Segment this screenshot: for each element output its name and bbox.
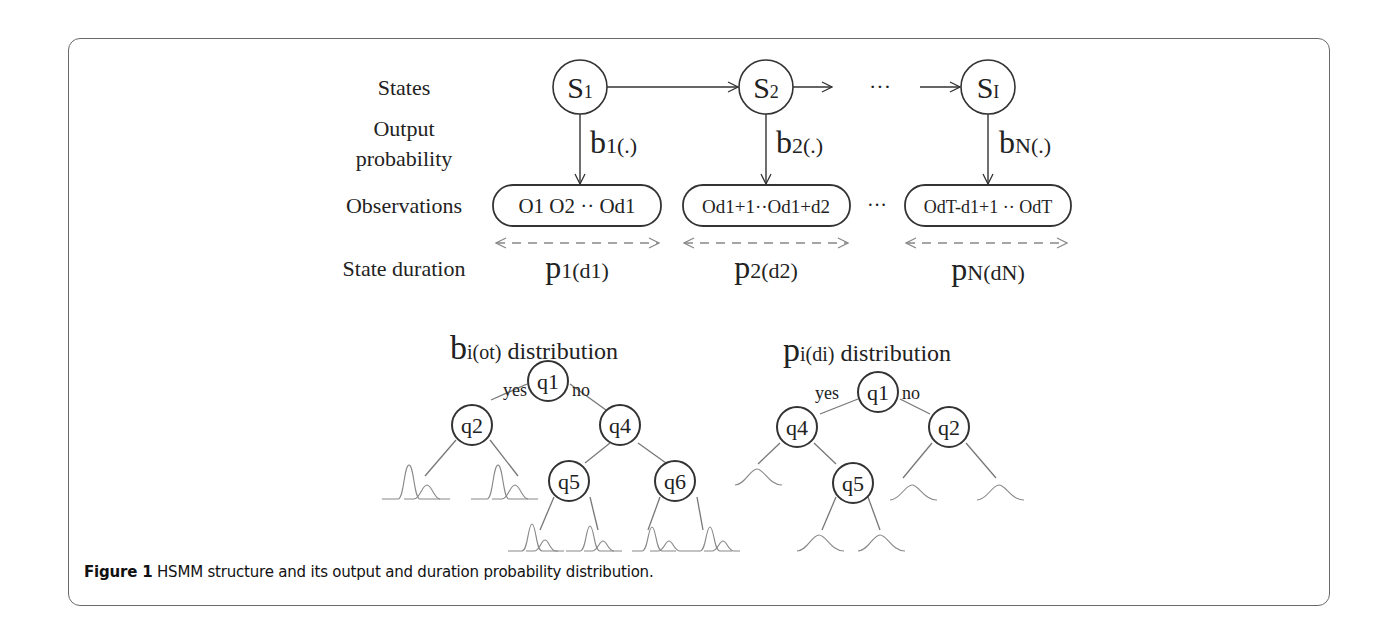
svg-text:OdT-d1+1 ·· OdT: OdT-d1+1 ·· OdT (924, 197, 1052, 217)
tree2-node-q4: q4 (777, 407, 817, 447)
tree2-node-q1: q1 (858, 372, 898, 412)
svg-text:q4: q4 (786, 415, 808, 440)
row-label-state-duration: State duration (343, 256, 466, 281)
tree2-gaussian-leaves (735, 469, 1024, 551)
tree2-node-q5: q5 (833, 463, 873, 503)
tree1-node-q1: q1 (528, 361, 568, 401)
observations-ellipsis: ··· (867, 194, 887, 216)
output-prob-bn: bN(.) (999, 124, 1051, 160)
row-label-states: States (378, 75, 431, 100)
svg-text:q2: q2 (461, 413, 483, 438)
duration-p2: p2(d2) (734, 249, 798, 285)
tree1-node-q2: q2 (452, 405, 492, 445)
row-label-observations: Observations (346, 193, 462, 218)
hsmm-diagram: States Output probability Observations S… (0, 0, 1392, 632)
svg-text:q4: q4 (609, 413, 631, 438)
output-distribution-tree: bi(ot) distribution q1 q2 q4 q5 q6 yes n… (382, 329, 740, 551)
tree1-yes-label: yes (503, 380, 527, 400)
state-node-si: SI (961, 60, 1015, 114)
svg-text:q5: q5 (558, 469, 580, 494)
duration-distribution-tree: pi(di) distribution q1 q4 q2 q5 yes no (735, 331, 1024, 551)
tree1-node-q4: q4 (600, 405, 640, 445)
duration-p1: p1(d1) (545, 249, 609, 285)
svg-text:O1 O2 ·· Od1: O1 O2 ·· Od1 (518, 194, 635, 218)
state-node-s1: S1 (553, 60, 607, 114)
svg-text:q1: q1 (537, 369, 559, 394)
tree1-node-q5: q5 (549, 461, 589, 501)
observation-box-1: O1 O2 ·· Od1 (493, 185, 661, 226)
figure-caption: Figure 1 HSMM structure and its output a… (84, 563, 654, 581)
svg-text:q2: q2 (938, 415, 960, 440)
row-label-output: Output (373, 116, 434, 141)
duration-pn: pN(dN) (951, 251, 1024, 287)
state-node-s2: S2 (739, 60, 793, 114)
output-prob-b2: b2(.) (776, 124, 823, 160)
figure-label: Figure 1 (84, 563, 152, 581)
tree-title-duration: pi(di) distribution (783, 331, 951, 368)
row-label-probability: probability (356, 146, 453, 171)
observation-box-3: OdT-d1+1 ·· OdT (905, 185, 1071, 226)
tree-title-output: bi(ot) distribution (450, 329, 618, 366)
svg-text:Od1+1··Od1+d2: Od1+1··Od1+d2 (702, 196, 830, 217)
states-ellipsis: ··· (869, 74, 891, 99)
output-prob-b1: b1(.) (590, 124, 637, 160)
svg-text:q1: q1 (867, 380, 889, 405)
caption-text: HSMM structure and its output and durati… (152, 563, 653, 581)
tree1-node-q6: q6 (655, 461, 695, 501)
tree2-no-label: no (902, 383, 920, 403)
tree1-no-label: no (572, 380, 590, 400)
svg-text:q6: q6 (664, 469, 686, 494)
tree2-yes-label: yes (815, 383, 839, 403)
observation-box-2: Od1+1··Od1+d2 (683, 185, 850, 226)
tree2-node-q2: q2 (929, 407, 969, 447)
svg-text:q5: q5 (842, 471, 864, 496)
